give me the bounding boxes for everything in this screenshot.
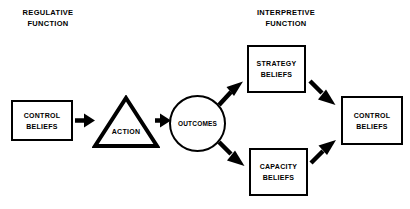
node-label-line2: BELIEFS xyxy=(26,121,58,132)
node-label-outcomes: OUTCOMES xyxy=(178,120,217,127)
arrow-outcomes-to-strategy-beliefs xyxy=(219,82,243,106)
diagram-canvas: REGULATIVE FUNCTION INTERPRETIVE FUNCTIO… xyxy=(0,0,410,209)
node-strategy-beliefs: STRATEGY BELIEFS xyxy=(247,45,306,93)
node-label-action: ACTION xyxy=(92,128,160,135)
node-label-line1: STRATEGY xyxy=(257,58,297,69)
node-action-triangle: ACTION xyxy=(92,95,160,149)
node-outcomes-circle: OUTCOMES xyxy=(169,95,226,152)
node-label-line2: BELIEFS xyxy=(356,121,388,132)
triangle-shape xyxy=(92,95,160,149)
node-label-line1: CONTROL xyxy=(354,110,391,121)
arrow-strategy-beliefs-to-control-beliefs xyxy=(310,81,336,105)
section-label-regulative-function: REGULATIVE FUNCTION xyxy=(8,8,88,29)
node-label-line2: BELIEFS xyxy=(263,172,295,183)
node-control-beliefs-left: CONTROL BELIEFS xyxy=(11,100,73,141)
arrow-outcomes-to-capacity-beliefs xyxy=(219,142,245,166)
node-capacity-beliefs: CAPACITY BELIEFS xyxy=(249,148,308,196)
node-label-line2: BELIEFS xyxy=(261,69,293,80)
node-control-beliefs-right: CONTROL BELIEFS xyxy=(341,96,403,145)
node-label-line1: CONTROL xyxy=(24,110,61,121)
node-label-line1: CAPACITY xyxy=(260,161,298,172)
section-label-interpretive-function: INTERPRETIVE FUNCTION xyxy=(240,8,332,29)
arrow-capacity-beliefs-to-control-beliefs xyxy=(311,140,336,163)
